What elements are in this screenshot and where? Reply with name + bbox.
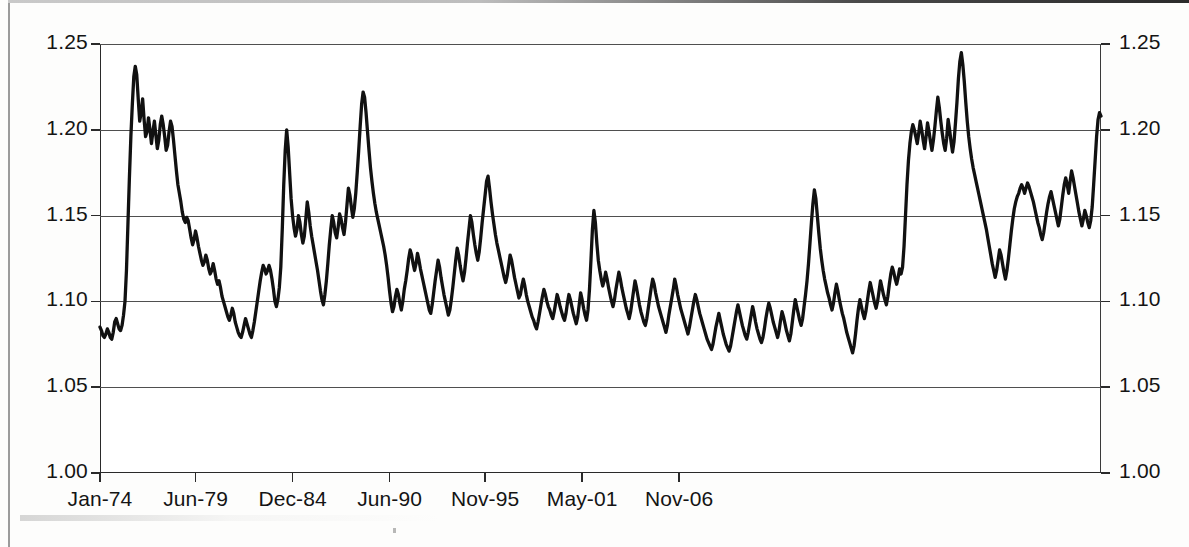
scan-border-left [8,0,10,547]
x-tick-Jun-90 [389,473,391,482]
y-tick-right-1.20 [1101,129,1110,131]
series-plot [100,44,1101,473]
scan-border-top [8,0,1189,3]
y-axis-label-left: 1.25 [24,30,88,54]
y-axis-label-left: 1.05 [24,373,88,397]
y-tick-1.20 [91,129,100,131]
plot-area [100,44,1101,473]
y-axis-label-left: 1.00 [24,459,88,483]
y-tick-1.15 [91,215,100,217]
scan-speck [393,528,396,533]
x-tick-Jun-79 [195,473,197,482]
chart-figure: 1.001.051.101.151.201.25 1.001.051.101.1… [0,0,1189,547]
y-tick-right-1.00 [1101,472,1110,474]
y-tick-right-1.15 [1101,215,1110,217]
y-axis-label-right: 1.10 [1119,287,1189,311]
y-axis-label-left: 1.15 [24,202,88,226]
y-tick-1.25 [91,43,100,45]
y-axis-label-right: 1.20 [1119,116,1189,140]
y-axis-label-right: 1.25 [1119,30,1189,54]
x-tick-Dec-84 [292,473,294,482]
y-tick-right-1.25 [1101,43,1110,45]
x-tick-Nov-06 [678,473,680,482]
x-tick-Nov-95 [484,473,486,482]
y-tick-1.10 [91,301,100,303]
y-axis-label-left: 1.10 [24,287,88,311]
x-tick-Jan-74 [99,473,101,482]
y-axis-label-right: 1.00 [1119,459,1189,483]
scan-artifact [20,515,440,521]
x-tick-May-01 [581,473,583,482]
y-axis-label-right: 1.05 [1119,373,1189,397]
x-axis-label: Nov-06 [609,487,749,511]
y-tick-1.05 [91,386,100,388]
series-line-1 [100,53,1101,353]
y-axis-label-left: 1.20 [24,116,88,140]
y-tick-right-1.10 [1101,301,1110,303]
y-axis-label-right: 1.15 [1119,202,1189,226]
y-tick-right-1.05 [1101,386,1110,388]
